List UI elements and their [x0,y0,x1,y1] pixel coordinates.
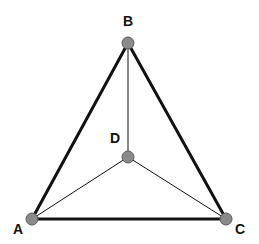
edges [32,43,226,219]
node-d [122,151,134,163]
node-label-c: C [235,221,245,237]
nodes [26,37,232,225]
edge-a-d [32,157,128,219]
node-label-b: B [123,13,133,29]
node-label-a: A [13,221,23,237]
edge-b-c [128,43,226,219]
graph-diagram: A B C D [0,0,259,244]
node-label-d: D [110,130,120,146]
edge-c-d [128,157,226,219]
node-a [26,213,38,225]
node-c [220,213,232,225]
node-b [122,37,134,49]
